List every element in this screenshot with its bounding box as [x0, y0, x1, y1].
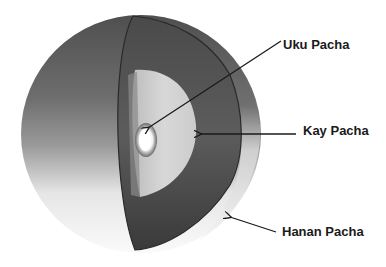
label-hanan-pacha: Hanan Pacha	[282, 225, 364, 238]
label-uku-pacha: Uku Pacha	[283, 38, 349, 51]
core	[135, 123, 157, 157]
label-kay-pacha: Kay Pacha	[303, 124, 369, 137]
arrow-hanan	[230, 217, 276, 232]
